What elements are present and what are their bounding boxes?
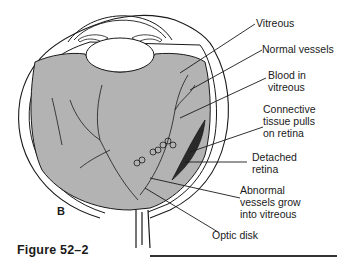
- label-detached-retina-line1: Detached: [252, 151, 297, 163]
- label-abnormal-vessels-line3: into vitreous: [240, 208, 297, 220]
- optic-nerve: [136, 210, 150, 248]
- panel-letter: B: [57, 205, 65, 217]
- label-optic-disk: Optic disk: [212, 229, 258, 241]
- caption-rule: [150, 255, 337, 257]
- vitreous-body: [31, 53, 210, 210]
- label-connective-tissue-line1: Connective: [263, 103, 316, 115]
- lens: [86, 38, 154, 72]
- label-vitreous: Vitreous: [256, 17, 294, 29]
- label-normal-vessels: Normal vessels: [262, 43, 334, 55]
- label-abnormal-vessels-line2: vessels grow: [240, 196, 301, 208]
- label-blood-in-vitreous-line1: Blood in: [268, 69, 306, 81]
- label-detached-retina-line2: retina: [252, 163, 278, 175]
- label-connective-tissue-line3: on retina: [263, 127, 304, 139]
- label-abnormal-vessels-line1: Abnormal: [240, 184, 285, 196]
- label-connective-tissue-line2: tissue pulls: [263, 115, 315, 127]
- label-blood-in-vitreous-line2: vitreous: [268, 81, 305, 93]
- figure-caption: Figure 52–2: [17, 243, 89, 257]
